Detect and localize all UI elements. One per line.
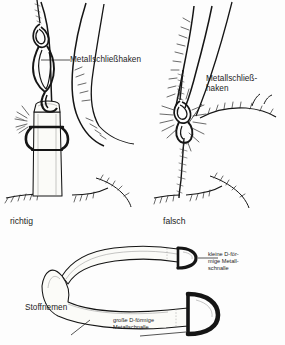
label-large-d-ring-line2: Metallschnalle — [113, 324, 149, 331]
label-small-d-ring-line1: kleine D-för- — [208, 251, 239, 258]
label-metal-hook-correct: Metallschließhaken — [70, 55, 141, 65]
d-ring-small — [178, 248, 196, 268]
fur-tuft-left — [15, 106, 29, 133]
d-ring-large — [188, 294, 218, 334]
label-metal-hook-wrong-line2: haken — [206, 84, 229, 94]
ground-fur — [154, 173, 249, 208]
leader-line-large-ring — [140, 332, 186, 336]
fabric-strap — [33, 112, 62, 196]
caption-wrong: falsch — [163, 216, 185, 226]
strap-upper-arm — [62, 246, 178, 284]
wrong-illustration — [140, 0, 285, 215]
twisted-rope — [177, 70, 187, 198]
label-large-d-ring-line1: große D-förmige — [113, 317, 154, 324]
caption-correct: richtig — [10, 216, 33, 226]
ground-fur — [5, 175, 131, 207]
diagram-page: Metallschließhaken richtig — [0, 0, 285, 345]
figure-wrong-attachment — [140, 0, 285, 215]
figure-correct-attachment — [0, 0, 150, 215]
label-fabric-strap: Stoffriemen — [25, 303, 67, 313]
leg-contour — [167, 2, 276, 118]
label-small-d-ring-line2: mige Metall- — [208, 258, 239, 265]
label-metal-hook-wrong-line1: Metallschließ- — [206, 74, 257, 84]
metal-snap-hook-wrong — [160, 89, 206, 153]
label-small-d-ring-line3: schnalle — [208, 265, 229, 272]
correct-illustration — [0, 0, 150, 215]
